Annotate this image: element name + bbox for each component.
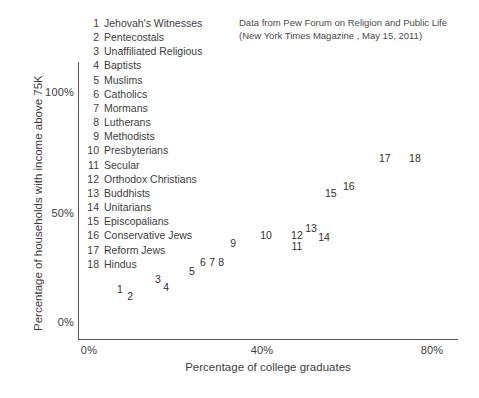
legend-item-label: Unitarians xyxy=(104,200,151,214)
legend-item-label: Methodists xyxy=(104,129,155,143)
legend-item-label: Conservative Jews xyxy=(104,228,192,242)
legend-item-label: Jehovah's Witnesses xyxy=(104,16,202,30)
scatter-chart: Percentage of households with income abo… xyxy=(0,0,479,398)
legend-item: 7Mormans xyxy=(84,101,202,115)
legend-item: 1Jehovah's Witnesses xyxy=(84,16,202,30)
data-point-label: 12 xyxy=(291,229,303,241)
legend-item-number: 17 xyxy=(84,243,99,257)
legend-item-number: 2 xyxy=(84,30,99,44)
data-point-label: 18 xyxy=(409,152,421,164)
legend-item: 6Catholics xyxy=(84,87,202,101)
legend-item-number: 15 xyxy=(84,214,99,228)
legend-item: 4Baptists xyxy=(84,58,202,72)
data-point-label: 16 xyxy=(343,180,355,192)
x-tick-0: 0% xyxy=(81,344,97,356)
data-point-label: 6 xyxy=(200,256,206,268)
legend-item: 15Episcopalians xyxy=(84,214,202,228)
legend-item-number: 4 xyxy=(84,58,99,72)
legend-item: 16Conservative Jews xyxy=(84,228,202,242)
source-note-line-1: Data from Pew Forum on Religion and Publ… xyxy=(239,16,447,29)
legend-item-label: Baptists xyxy=(104,58,141,72)
legend-item-number: 16 xyxy=(84,228,99,242)
x-tick-80: 80% xyxy=(421,344,444,356)
legend-item-number: 18 xyxy=(84,257,99,271)
legend-item-number: 8 xyxy=(84,115,99,129)
data-point-label: 15 xyxy=(325,187,337,199)
legend-item-label: Pentecostals xyxy=(104,30,164,44)
legend-item-label: Reform Jews xyxy=(104,243,165,257)
legend-item-label: Mormans xyxy=(104,101,148,115)
y-tick-0: 0% xyxy=(58,316,74,328)
legend-item: 3Unaffiliated Religious xyxy=(84,44,202,58)
legend-item-number: 5 xyxy=(84,73,99,87)
data-point-label: 5 xyxy=(189,265,195,277)
y-tick-50: 50% xyxy=(51,207,74,219)
legend: 1Jehovah's Witnesses2Pentecostals3Unaffi… xyxy=(84,16,202,271)
legend-item-label: Muslims xyxy=(104,73,143,87)
x-axis-title: Percentage of college graduates xyxy=(78,361,458,373)
legend-item: 8Lutherans xyxy=(84,115,202,129)
legend-item-label: Episcopalians xyxy=(104,214,169,228)
data-point-label: 2 xyxy=(127,290,133,302)
legend-item-label: Buddhists xyxy=(104,186,150,200)
legend-item-number: 1 xyxy=(84,16,99,30)
legend-item-number: 7 xyxy=(84,101,99,115)
legend-item-label: Catholics xyxy=(104,87,147,101)
legend-item: 18Hindus xyxy=(84,257,202,271)
legend-item: 12Orthodox Christians xyxy=(84,172,202,186)
data-point-label: 1 xyxy=(117,283,123,295)
data-point-label: 14 xyxy=(318,231,330,243)
y-tick-100: 100% xyxy=(45,86,74,98)
legend-item-number: 12 xyxy=(84,172,99,186)
legend-item: 11Secular xyxy=(84,158,202,172)
y-axis-ticks: 100% 50% 0% xyxy=(0,0,74,398)
legend-item-number: 6 xyxy=(84,87,99,101)
data-point-label: 13 xyxy=(305,222,317,234)
legend-item-number: 3 xyxy=(84,44,99,58)
legend-item: 5Muslims xyxy=(84,73,202,87)
legend-item: 17Reform Jews xyxy=(84,243,202,257)
data-point-label: 11 xyxy=(291,240,302,252)
legend-item: 9Methodists xyxy=(84,129,202,143)
legend-item-label: Unaffiliated Religious xyxy=(104,44,202,58)
legend-item-number: 10 xyxy=(84,143,99,157)
legend-item-number: 14 xyxy=(84,200,99,214)
legend-item-number: 9 xyxy=(84,129,99,143)
source-note-line-2: (New York Times Magazine , May 15, 2011) xyxy=(239,29,447,42)
legend-item-label: Lutherans xyxy=(104,115,151,129)
legend-item: 10Presbyterians xyxy=(84,143,202,157)
legend-item-number: 13 xyxy=(84,186,99,200)
legend-item: 14Unitarians xyxy=(84,200,202,214)
x-tick-40: 40% xyxy=(251,344,274,356)
legend-item-label: Orthodox Christians xyxy=(104,172,197,186)
legend-item-number: 11 xyxy=(84,158,99,172)
legend-item-label: Secular xyxy=(104,158,140,172)
data-point-label: 17 xyxy=(379,152,391,164)
data-point-label: 10 xyxy=(260,229,272,241)
legend-item: 2Pentecostals xyxy=(84,30,202,44)
legend-item: 13Buddhists xyxy=(84,186,202,200)
data-point-label: 7 xyxy=(209,256,215,268)
legend-item-label: Hindus xyxy=(104,257,137,271)
legend-item-label: Presbyterians xyxy=(104,143,168,157)
data-point-label: 8 xyxy=(218,256,224,268)
source-note: Data from Pew Forum on Religion and Publ… xyxy=(239,16,447,42)
data-point-label: 4 xyxy=(163,281,169,293)
data-point-label: 9 xyxy=(230,237,236,249)
data-point-label: 3 xyxy=(155,273,161,285)
